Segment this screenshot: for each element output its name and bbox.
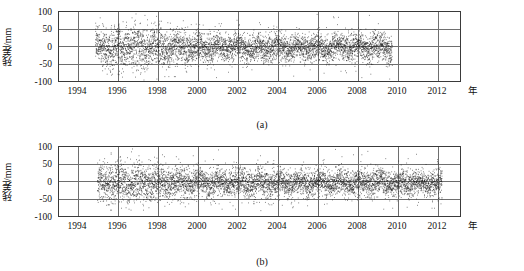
gridline-b-1994 [78,147,79,216]
x-tick-a-2006: 2006 [297,86,337,96]
y-tick-b-neg50: -50 [18,194,52,204]
panel-b: 残差/mm 100 50 0 -50 -100 1994 1996 1998 [0,134,524,271]
plot-area-b [58,146,461,217]
gridline-a-2002 [238,12,239,81]
x-tick-a-1994: 1994 [57,86,97,96]
y-tick-b-0: 0 [18,177,52,187]
gridline-a-1998 [158,12,159,81]
gridline-a-2012 [438,12,439,81]
x-tick-a-2000: 2000 [177,86,217,96]
y-tick-a-100: 100 [18,7,52,17]
gridline-a-2006 [318,12,319,81]
x-tick-b-1998: 1998 [137,221,177,231]
gridline-b-2006 [318,147,319,216]
x-tick-b-2002: 2002 [217,221,257,231]
gridline-b-2004 [278,147,279,216]
y-tick-a-neg50: -50 [18,59,52,69]
x-tick-b-2010: 2010 [377,221,417,231]
x-tick-b-1996: 1996 [97,221,137,231]
gridline-a-2000 [198,12,199,81]
y-tick-b-100: 100 [18,142,52,152]
gridline-b-2002 [238,147,239,216]
y-tick-a-0: 0 [18,42,52,52]
gridline-b-2010 [398,147,399,216]
panel-a: 残差/mm 100 50 0 -50 -100 1994 1996 1998 [0,0,524,135]
residual-time-series-figure: 残差/mm 100 50 0 -50 -100 1994 1996 1998 [0,0,524,271]
x-tick-a-2004: 2004 [257,86,297,96]
x-tick-a-1998: 1998 [137,86,177,96]
gridline-a-neg50 [59,64,460,65]
y-axis-label-a: 残差/mm [2,14,18,80]
gridline-a-50 [59,29,460,30]
x-tick-b-1994: 1994 [57,221,97,231]
x-tick-b-2008: 2008 [337,221,377,231]
gridline-b-0 [59,181,460,182]
x-tick-b-2000: 2000 [177,221,217,231]
y-tick-b-neg100: -100 [18,212,52,222]
x-tick-a-2012: 2012 [417,86,457,96]
gridline-a-2008 [358,12,359,81]
gridline-b-1998 [158,147,159,216]
gridline-a-1994 [78,12,79,81]
x-tick-a-2008: 2008 [337,86,377,96]
y-tick-a-neg100: -100 [18,77,52,87]
gridline-a-2004 [278,12,279,81]
y-tick-b-50: 50 [18,159,52,169]
gridline-a-0 [59,46,460,47]
panel-caption-a: (a) [232,119,292,130]
y-axis-label-b: 残差/mm [2,149,18,215]
x-tick-a-2010: 2010 [377,86,417,96]
gridline-a-2010 [398,12,399,81]
gridline-b-neg50 [59,199,460,200]
gridline-b-1996 [118,147,119,216]
x-tick-a-1996: 1996 [97,86,137,96]
plot-area-a [58,11,461,82]
y-tick-a-50: 50 [18,24,52,34]
gridline-a-1996 [118,12,119,81]
gridline-b-2012 [438,147,439,216]
gridline-b-2008 [358,147,359,216]
x-tick-b-2006: 2006 [297,221,337,231]
x-tick-b-2004: 2004 [257,221,297,231]
gridline-b-2000 [198,147,199,216]
x-axis-unit-b: 年 [468,221,478,231]
panel-caption-b: (b) [232,256,292,267]
x-tick-a-2002: 2002 [217,86,257,96]
gridline-b-50 [59,164,460,165]
x-axis-unit-a: 年 [468,86,478,96]
x-tick-b-2012: 2012 [417,221,457,231]
